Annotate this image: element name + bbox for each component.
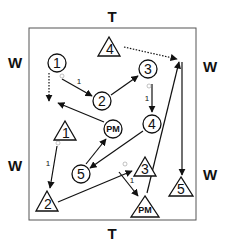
svg-text:4: 4 (106, 41, 114, 57)
left-upper-side-label: W (8, 54, 23, 71)
dotted-run-arrow (124, 47, 177, 59)
player-triangle-pm: PM (131, 196, 159, 217)
pass-label: 1 (130, 176, 135, 185)
pass-label: 1 (77, 77, 82, 86)
svg-text:PM: PM (138, 205, 152, 215)
svg-text:2: 2 (98, 93, 106, 109)
drill-diagram: T T W W W W 1 1 1 1 (0, 0, 226, 246)
top-side-label: T (107, 8, 116, 25)
run-arrow (58, 171, 132, 202)
pass-label: 1 (145, 94, 150, 103)
player-triangle-1: 1 (54, 121, 76, 141)
player-circle-1: 1 (48, 54, 66, 72)
player-triangle-5: 5 (169, 177, 193, 197)
svg-text:3: 3 (144, 61, 152, 77)
player-triangle-3: 3 (134, 157, 156, 177)
svg-text:1: 1 (62, 125, 70, 141)
ball-markers (56, 74, 151, 166)
pass-label: 1 (46, 159, 51, 168)
svg-text:5: 5 (177, 181, 185, 197)
right-upper-side-label: W (203, 58, 218, 75)
player-triangle-4: 4 (98, 37, 120, 57)
player-triangle-2: 2 (36, 191, 58, 212)
svg-text:3: 3 (141, 161, 149, 177)
pass-arrow (50, 146, 57, 188)
player-circle-5: 5 (72, 165, 90, 183)
svg-text:2: 2 (44, 196, 52, 212)
left-lower-side-label: W (8, 157, 23, 174)
ball-icon (147, 84, 151, 88)
svg-text:4: 4 (148, 116, 156, 132)
player-circle-pm: PM (104, 120, 122, 138)
bottom-side-label: T (107, 225, 116, 242)
player-circle-3: 3 (139, 60, 157, 78)
svg-text:1: 1 (53, 55, 61, 71)
svg-text:5: 5 (77, 166, 85, 182)
right-lower-side-label: W (203, 166, 218, 183)
ball-icon (123, 162, 127, 166)
ball-icon (56, 141, 60, 145)
player-circle-4: 4 (143, 115, 161, 133)
svg-text:PM: PM (106, 124, 120, 134)
run-arrow (86, 139, 106, 164)
run-arrow (111, 76, 138, 95)
player-circle-2: 2 (93, 92, 111, 110)
ball-icon (60, 74, 64, 78)
